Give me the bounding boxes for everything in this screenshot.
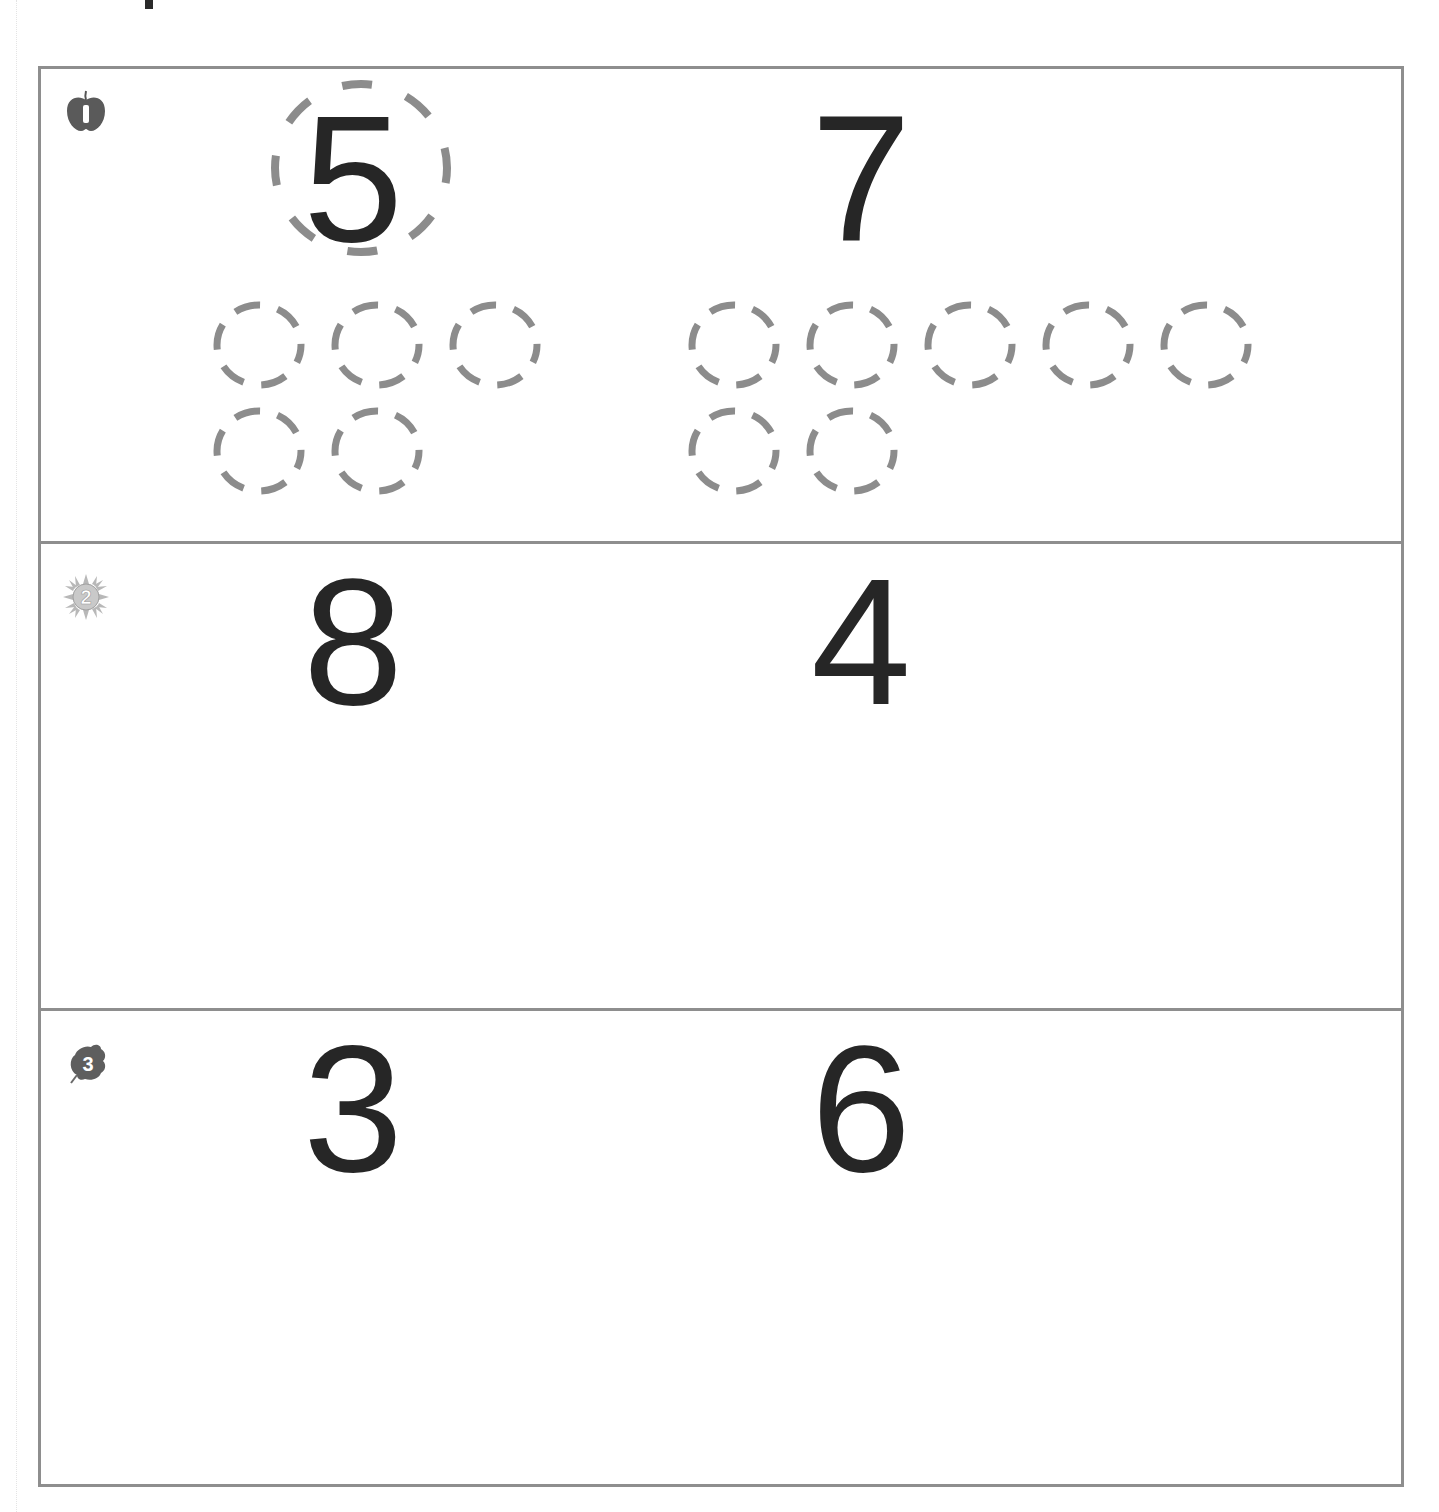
exercise-section-3: 3 3 3 6: [41, 1008, 1401, 1487]
leaf-badge-icon: 3 3: [61, 1039, 111, 1089]
dashed-counter-circle[interactable]: [447, 299, 543, 391]
dashed-counter-circle[interactable]: [211, 405, 307, 497]
target-number-left: 8: [273, 552, 433, 732]
dashed-counter-circle[interactable]: [211, 299, 307, 391]
page-edge-line: [16, 0, 17, 1512]
counter-row: [211, 299, 543, 391]
cropped-heading-fragment: [145, 0, 153, 9]
counter-row: [686, 405, 1254, 497]
exercise-section-2: 2 2 8 4: [41, 541, 1401, 1008]
counter-group-left: [211, 299, 543, 511]
counter-row: [211, 405, 543, 497]
target-number-right: 4: [781, 552, 941, 732]
exercise-section-1: 1 5 7: [41, 69, 1401, 538]
dashed-counter-circle[interactable]: [686, 405, 782, 497]
svg-text:2: 2: [80, 586, 91, 608]
counter-row: [686, 299, 1254, 391]
dashed-counter-circle[interactable]: [804, 405, 900, 497]
counter-group-right: [686, 299, 1254, 511]
sun-badge-icon: 2 2: [61, 572, 111, 622]
dashed-counter-circle[interactable]: [922, 299, 1018, 391]
dashed-counter-circle[interactable]: [329, 299, 425, 391]
target-number-right: 6: [781, 1019, 941, 1199]
target-number-left: 5: [273, 89, 433, 269]
dashed-counter-circle[interactable]: [1040, 299, 1136, 391]
target-number-right: 7: [781, 89, 941, 269]
target-number-left: 3: [273, 1019, 433, 1199]
apple-badge-icon: 1: [61, 85, 111, 135]
worksheet-frame: 1 5 7: [38, 66, 1404, 1487]
svg-text:3: 3: [82, 1053, 93, 1075]
dashed-counter-circle[interactable]: [686, 299, 782, 391]
dashed-counter-circle[interactable]: [1158, 299, 1254, 391]
worksheet-page: 1 5 7: [0, 0, 1439, 1512]
dashed-counter-circle[interactable]: [329, 405, 425, 497]
dashed-counter-circle[interactable]: [804, 299, 900, 391]
